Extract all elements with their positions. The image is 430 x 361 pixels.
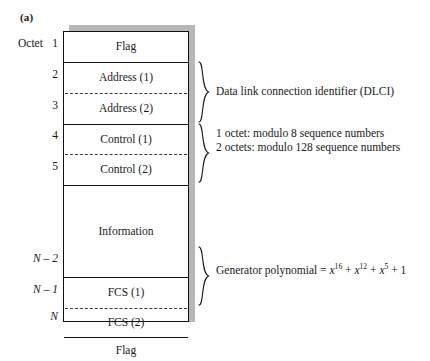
field-label: Information: [99, 226, 154, 238]
generator-op-3: +: [388, 264, 400, 276]
octet-number-3: 3: [18, 99, 58, 111]
field-label: FCS (2): [108, 317, 145, 329]
octet-number-1: 1: [18, 37, 58, 49]
frame-box: Flag Address (1) Address (2) Control (1)…: [63, 31, 189, 322]
octet-number-2: 2: [18, 68, 58, 80]
octet-number-n-1: N – 1: [16, 283, 58, 295]
field-label: Control (2): [100, 164, 151, 176]
generator-constant: 1: [401, 264, 407, 276]
field-control-2: Control (2): [64, 154, 188, 185]
figure-label: (a): [20, 11, 33, 23]
field-flag-top: Flag: [64, 32, 188, 62]
annotation-generator-polynomial: Generator polynomial = x16 + x12 + x5 + …: [216, 264, 406, 278]
field-information: Information: [64, 185, 188, 277]
generator-op-1: +: [342, 264, 354, 276]
generator-prefix: Generator polynomial =: [216, 264, 329, 276]
field-label: Address (2): [99, 103, 153, 115]
field-label: Address (1): [99, 72, 153, 84]
octet-number-n-2: N – 2: [16, 252, 58, 264]
octet-number-4: 4: [18, 129, 58, 141]
field-fcs-1: FCS (1): [64, 277, 188, 308]
field-control-1: Control (1): [64, 124, 188, 154]
annotation-dlci: Data link connection identifier (DLCI): [216, 85, 394, 99]
brace-dlci: [197, 61, 211, 123]
generator-term-2-exp: 12: [360, 262, 368, 271]
field-label: Control (1): [100, 134, 151, 146]
field-address-1: Address (1): [64, 62, 188, 93]
brace-control: [197, 123, 211, 183]
octet-number-5: 5: [18, 160, 58, 172]
annotation-control-2: 2 octets: modulo 128 sequence numbers: [216, 141, 400, 155]
field-fcs-2: FCS (2): [64, 308, 188, 337]
generator-op-2: +: [367, 264, 379, 276]
annotation-control-1: 1 octet: modulo 8 sequence numbers: [216, 127, 384, 141]
field-flag-bottom: Flag: [64, 337, 188, 361]
octet-number-n: N: [16, 310, 58, 322]
field-label: Flag: [116, 345, 136, 357]
brace-fcs: [197, 246, 211, 306]
field-label: FCS (1): [108, 287, 145, 299]
field-label: Flag: [116, 41, 136, 53]
field-address-2: Address (2): [64, 93, 188, 124]
